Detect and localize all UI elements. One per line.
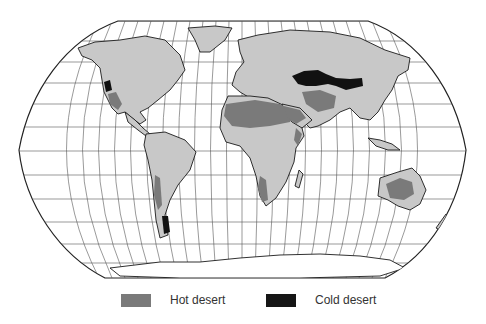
legend-label-cold-desert: Cold desert (315, 293, 376, 307)
cold-desert-swatch (266, 294, 296, 307)
legend-label-hot-desert: Hot desert (170, 293, 225, 307)
legend-item-hot-desert: Hot desert (121, 293, 225, 307)
world-map (0, 0, 486, 290)
legend-item-cold-desert: Cold desert (266, 293, 376, 307)
hot-desert-swatch (121, 294, 151, 307)
legend: Hot desert Cold desert (0, 293, 486, 317)
